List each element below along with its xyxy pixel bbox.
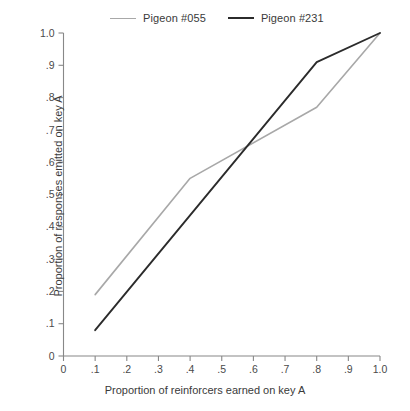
x-axis-title: Proportion of reinforcers earned on key … [0,384,410,396]
x-axis-tick-label: .9 [344,363,353,375]
x-axis-tick-label: .1 [91,363,100,375]
x-axis-tick-label: 0 [61,363,67,375]
x-axis-tick-label: .8 [312,363,321,375]
y-axis-title: Proportion of responses emitted on key A [52,46,64,346]
series-line-1 [95,33,380,295]
x-axis-tick-label: 1.0 [373,363,388,375]
x-axis-tick-label: .7 [281,363,290,375]
x-axis-tick-label: .3 [154,363,163,375]
x-axis-tick-label: .2 [122,363,131,375]
x-axis-tick-label: .5 [217,363,226,375]
axis-layer [59,33,381,361]
chart-figure: Pigeon #055 Pigeon #231 0.1.2.3.4.5.6.7.… [0,0,410,411]
y-axis-tick-label: 0 [49,350,55,362]
tick-label-layer: 0.1.2.3.4.5.6.7.8.91.00.1.2.3.4.5.6.7.8.… [40,27,388,375]
x-axis-tick-label: .6 [249,363,258,375]
y-axis-tick-label: 1.0 [40,27,55,39]
series-layer [95,33,380,330]
x-axis-tick-label: .4 [186,363,195,375]
series-line-2 [95,33,380,330]
